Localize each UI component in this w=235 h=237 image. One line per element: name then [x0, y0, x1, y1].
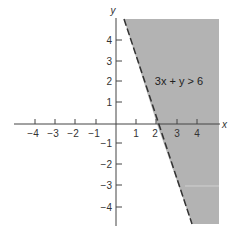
- svg-text:3: 3: [106, 56, 112, 67]
- svg-text:−1: −1: [101, 138, 113, 149]
- svg-text:2: 2: [106, 76, 112, 87]
- svg-text:−1: −1: [88, 128, 100, 139]
- svg-text:−3: −3: [47, 128, 59, 139]
- svg-text:−3: −3: [101, 180, 113, 191]
- shaded-region: [124, 19, 219, 224]
- svg-text:3: 3: [174, 128, 180, 139]
- svg-text:4: 4: [106, 35, 112, 46]
- svg-text:−4: −4: [27, 128, 39, 139]
- svg-text:−4: −4: [101, 202, 113, 213]
- svg-text:1: 1: [133, 128, 139, 139]
- inequality-graph: −4 −3 −2 −1 1 2 3 4 4 3 2 1 −1 −2 −3 −4 …: [0, 0, 235, 237]
- region-label: 3x + y > 6: [155, 75, 203, 87]
- x-tick-labels: −4 −3 −2 −1 1 2 3 4: [27, 128, 200, 139]
- y-axis-label: y: [110, 5, 117, 16]
- svg-text:2: 2: [152, 128, 158, 139]
- x-axis-label: x: [221, 119, 228, 130]
- svg-text:4: 4: [194, 128, 200, 139]
- svg-text:−2: −2: [67, 128, 79, 139]
- svg-text:−2: −2: [101, 159, 113, 170]
- svg-text:1: 1: [106, 97, 112, 108]
